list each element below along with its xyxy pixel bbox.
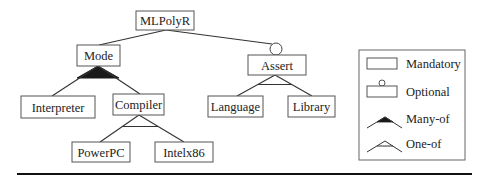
node-mode: Mode (77, 45, 120, 66)
node-label: Library (293, 100, 331, 114)
node-label: Mode (84, 49, 114, 63)
node-label: Interpreter (32, 101, 86, 115)
node-label: Intelx86 (163, 146, 205, 160)
edge-root-mode (99, 30, 166, 45)
node-interpreter: Interpreter (21, 96, 95, 118)
edge-compiler-powerpc (100, 115, 139, 142)
legend-label: Mandatory (406, 57, 462, 71)
node-label: MLPolyR (140, 14, 191, 28)
edge-mode-compiler (98, 66, 140, 94)
node-language: Language (208, 96, 263, 117)
edge-mode-interpreter (52, 66, 98, 96)
node-compiler: Compiler (113, 94, 164, 115)
legend-label: Many-of (406, 112, 451, 126)
node-intelx86: Intelx86 (155, 142, 213, 162)
edge-root-assert (166, 30, 272, 44)
node-label: Compiler (115, 98, 163, 112)
node-powerpc: PowerPC (72, 142, 130, 162)
feature-diagram: MLPolyR Mode Assert Interpreter Compiler… (0, 0, 482, 177)
node-label: PowerPC (77, 146, 124, 160)
legend: Mandatory Optional Many-of One-of (359, 50, 465, 160)
node-assert: Assert (248, 55, 306, 75)
legend-label: One-of (406, 137, 442, 151)
node-label: Language (211, 100, 261, 114)
mandatory-symbol-icon (367, 58, 397, 69)
edge-assert-library (275, 75, 312, 96)
node-library: Library (288, 96, 335, 117)
optional-marker-icon (270, 43, 282, 55)
legend-item-mandatory: Mandatory (367, 57, 462, 71)
bottom-rule (17, 173, 472, 175)
legend-label: Optional (406, 85, 450, 99)
edge-compiler-intelx86 (139, 115, 184, 142)
optional-symbol-icon (367, 86, 397, 97)
node-label: Assert (261, 59, 293, 73)
edge-assert-language (237, 75, 275, 96)
optional-circle-icon (379, 80, 385, 86)
node-mlpolyr: MLPolyR (136, 11, 194, 30)
